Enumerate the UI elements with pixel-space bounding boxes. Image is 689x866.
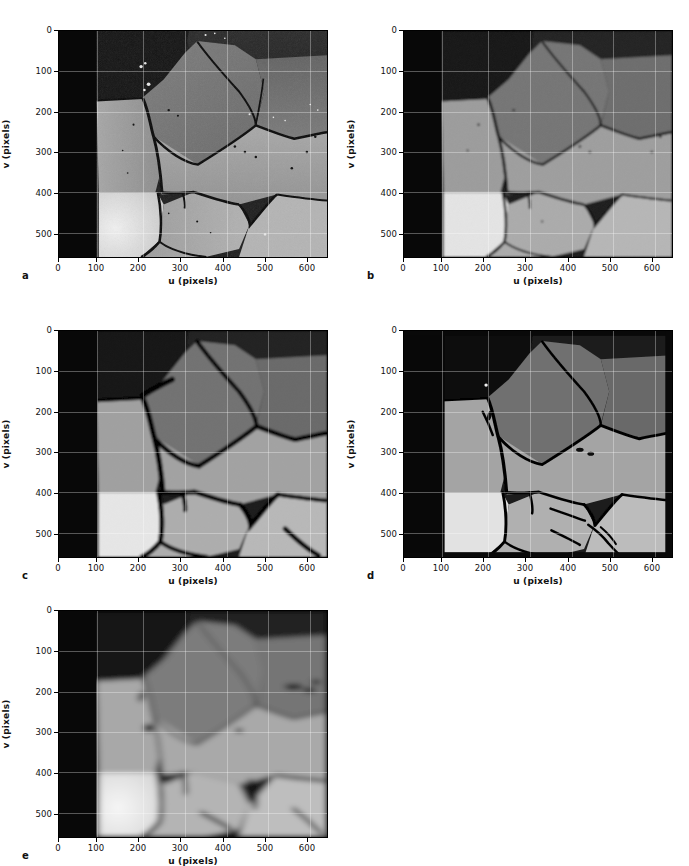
ytick-label: 0 xyxy=(46,25,52,35)
xtick-label: 100 xyxy=(88,843,105,853)
ytick-label: 0 xyxy=(391,325,397,335)
panel-e: 0 100 200 300 400 500 600 0 100 200 300 … xyxy=(0,580,344,866)
ytick-label: 200 xyxy=(35,107,52,117)
ytick-label: 300 xyxy=(35,447,52,457)
xtick-label: 600 xyxy=(299,843,316,853)
micrograph-image-e xyxy=(59,611,327,837)
ytick-label: 200 xyxy=(380,107,397,117)
ytick-label: 300 xyxy=(380,147,397,157)
ytick-label: 400 xyxy=(35,488,52,498)
xtick-label: 200 xyxy=(475,563,492,573)
x-axis-label: u (pixels) xyxy=(403,576,673,586)
x-axis-label: u (pixels) xyxy=(58,276,328,286)
ytick-label: 100 xyxy=(35,366,52,376)
xtick-label: 100 xyxy=(88,563,105,573)
y-axis-label: v (pixels) xyxy=(346,119,356,168)
ytick-label: 400 xyxy=(380,188,397,198)
xtick-label: 300 xyxy=(172,843,189,853)
panel-label-b: b xyxy=(367,270,374,281)
ytick-label: 400 xyxy=(35,768,52,778)
plot-area-b xyxy=(403,30,673,258)
ytick-label: 300 xyxy=(380,447,397,457)
ytick-label: 200 xyxy=(35,687,52,697)
xtick-label: 0 xyxy=(400,563,406,573)
y-axis-label: v (pixels) xyxy=(1,119,11,168)
ytick-label: 500 xyxy=(35,229,52,239)
ytick-label: 100 xyxy=(35,646,52,656)
xtick-label: 600 xyxy=(644,563,661,573)
ytick-label: 500 xyxy=(35,529,52,539)
ytick-label: 200 xyxy=(380,407,397,417)
ytick-label: 500 xyxy=(380,229,397,239)
x-axis-label: u (pixels) xyxy=(58,856,328,866)
ytick-label: 200 xyxy=(35,407,52,417)
plot-area-a xyxy=(58,30,328,258)
micrograph-image-d xyxy=(404,331,672,557)
plot-area-c xyxy=(58,330,328,558)
xtick-label: 400 xyxy=(560,263,577,273)
ytick-label: 0 xyxy=(46,325,52,335)
ytick-label: 400 xyxy=(35,188,52,198)
micrograph-image-c xyxy=(59,331,327,557)
panel-b: 0 100 200 300 400 500 600 0 100 200 300 … xyxy=(345,0,689,285)
y-axis-label: v (pixels) xyxy=(346,419,356,468)
ytick-label: 100 xyxy=(380,66,397,76)
xtick-label: 0 xyxy=(400,263,406,273)
ytick-label: 300 xyxy=(35,147,52,157)
xtick-label: 600 xyxy=(644,263,661,273)
xtick-label: 500 xyxy=(602,563,619,573)
xtick-label: 400 xyxy=(215,263,232,273)
micrograph-image-b xyxy=(404,31,672,257)
xtick-label: 0 xyxy=(55,263,61,273)
xtick-label: 400 xyxy=(215,843,232,853)
panel-a: 0 100 200 300 400 500 600 0 100 200 300 … xyxy=(0,0,344,285)
y-axis-label: v (pixels) xyxy=(1,419,11,468)
x-axis-label: u (pixels) xyxy=(403,276,673,286)
xtick-label: 600 xyxy=(299,563,316,573)
plot-area-e xyxy=(58,610,328,838)
xtick-label: 300 xyxy=(517,263,534,273)
xtick-label: 500 xyxy=(257,563,274,573)
xtick-label: 200 xyxy=(130,843,147,853)
xtick-label: 200 xyxy=(475,263,492,273)
xtick-label: 300 xyxy=(517,563,534,573)
xtick-label: 100 xyxy=(433,563,450,573)
xtick-label: 300 xyxy=(172,563,189,573)
micrograph-image-a xyxy=(59,31,327,257)
xtick-label: 300 xyxy=(172,263,189,273)
ytick-label: 100 xyxy=(380,366,397,376)
xtick-label: 400 xyxy=(560,563,577,573)
xtick-label: 100 xyxy=(433,263,450,273)
ytick-label: 500 xyxy=(380,529,397,539)
xtick-label: 500 xyxy=(257,263,274,273)
panel-label-e: e xyxy=(22,850,29,861)
ytick-label: 100 xyxy=(35,66,52,76)
xtick-label: 0 xyxy=(55,563,61,573)
xtick-label: 0 xyxy=(55,843,61,853)
ytick-label: 400 xyxy=(380,488,397,498)
xtick-label: 100 xyxy=(88,263,105,273)
panel-label-d: d xyxy=(367,570,374,581)
xtick-label: 500 xyxy=(602,263,619,273)
figure-panel-grid: 0 100 200 300 400 500 600 0 100 200 300 … xyxy=(0,0,689,866)
ytick-label: 300 xyxy=(35,727,52,737)
xtick-label: 400 xyxy=(215,563,232,573)
ytick-label: 0 xyxy=(46,605,52,615)
xtick-label: 200 xyxy=(130,563,147,573)
xtick-label: 200 xyxy=(130,263,147,273)
ytick-label: 500 xyxy=(35,809,52,819)
plot-area-d xyxy=(403,330,673,558)
panel-label-a: a xyxy=(22,270,29,281)
y-axis-label: v (pixels) xyxy=(1,699,11,748)
panel-d: 0 100 200 300 400 500 600 0 100 200 300 … xyxy=(345,300,689,585)
ytick-label: 0 xyxy=(391,25,397,35)
panel-c: 0 100 200 300 400 500 600 0 100 200 300 … xyxy=(0,300,344,585)
xtick-label: 600 xyxy=(299,263,316,273)
xtick-label: 500 xyxy=(257,843,274,853)
